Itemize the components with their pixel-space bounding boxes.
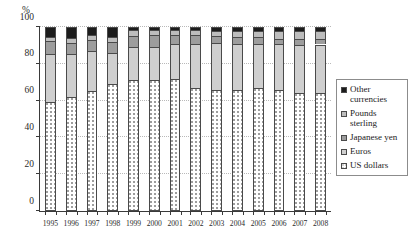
bar-segment[interactable] bbox=[274, 44, 285, 90]
stacked-bar-2008[interactable] bbox=[315, 27, 326, 211]
bar-group[interactable] bbox=[107, 27, 118, 211]
bar-segment[interactable] bbox=[170, 79, 181, 211]
bar-group[interactable] bbox=[128, 27, 139, 211]
bar-segment[interactable] bbox=[107, 84, 118, 212]
bar-segment[interactable] bbox=[294, 31, 305, 40]
legend-item[interactable]: Euros bbox=[341, 146, 403, 156]
bar-group[interactable] bbox=[45, 27, 56, 211]
legend-item[interactable]: Japanese yen bbox=[341, 132, 403, 142]
legend-item[interactable]: US dollars bbox=[341, 160, 403, 170]
bar-segment[interactable] bbox=[211, 36, 222, 43]
bar-segment[interactable] bbox=[87, 27, 98, 35]
bar-group[interactable] bbox=[274, 27, 285, 211]
bar-segment[interactable] bbox=[190, 88, 201, 211]
bar-group[interactable] bbox=[294, 27, 305, 211]
bar-segment[interactable] bbox=[190, 35, 201, 43]
bar-segment[interactable] bbox=[274, 31, 285, 39]
bar-segment[interactable] bbox=[128, 80, 139, 211]
bar-segment[interactable] bbox=[170, 35, 181, 44]
stacked-bar-2002[interactable] bbox=[190, 27, 201, 211]
bar-group[interactable] bbox=[253, 27, 264, 211]
bar-segment[interactable] bbox=[149, 35, 160, 46]
bar-segment[interactable] bbox=[149, 30, 160, 35]
stacked-bar-1995[interactable] bbox=[45, 27, 56, 211]
stacked-bar-1998[interactable] bbox=[107, 27, 118, 211]
bar-segment[interactable] bbox=[274, 27, 285, 30]
bar-group[interactable] bbox=[170, 27, 181, 211]
bar-segment[interactable] bbox=[45, 54, 56, 103]
bar-segment[interactable] bbox=[315, 45, 326, 94]
stacked-bar-1999[interactable] bbox=[128, 27, 139, 211]
bar-segment[interactable] bbox=[232, 27, 243, 31]
bar-segment[interactable] bbox=[274, 39, 285, 45]
bar-segment[interactable] bbox=[128, 27, 139, 30]
bar-segment[interactable] bbox=[253, 37, 264, 44]
bar-segment[interactable] bbox=[66, 27, 77, 38]
stacked-bar-2007[interactable] bbox=[294, 27, 305, 211]
bar-segment[interactable] bbox=[170, 30, 181, 35]
bar-segment[interactable] bbox=[45, 102, 56, 211]
bar-segment[interactable] bbox=[87, 91, 98, 211]
stacked-bar-2000[interactable] bbox=[149, 27, 160, 211]
stacked-bar-2004[interactable] bbox=[232, 27, 243, 211]
bar-group[interactable] bbox=[87, 27, 98, 211]
bar-segment[interactable] bbox=[253, 31, 264, 38]
stacked-bar-2005[interactable] bbox=[253, 27, 264, 211]
stacked-bar-1997[interactable] bbox=[87, 27, 98, 211]
bar-segment[interactable] bbox=[253, 27, 264, 31]
bar-group[interactable] bbox=[190, 27, 201, 211]
bar-segment[interactable] bbox=[66, 54, 77, 97]
bar-segment[interactable] bbox=[315, 31, 326, 38]
bar-segment[interactable] bbox=[211, 27, 222, 31]
bar-segment[interactable] bbox=[315, 93, 326, 211]
bar-segment[interactable] bbox=[107, 53, 118, 84]
bar-segment[interactable] bbox=[45, 37, 56, 41]
bar-group[interactable] bbox=[66, 27, 77, 211]
bar-segment[interactable] bbox=[315, 39, 326, 45]
bar-group[interactable] bbox=[232, 27, 243, 211]
bar-segment[interactable] bbox=[294, 93, 305, 211]
bar-group[interactable] bbox=[211, 27, 222, 211]
bar-segment[interactable] bbox=[66, 97, 77, 211]
bar-segment[interactable] bbox=[45, 27, 56, 37]
bar-segment[interactable] bbox=[87, 51, 98, 91]
bar-segment[interactable] bbox=[149, 80, 160, 211]
bar-segment[interactable] bbox=[232, 37, 243, 44]
bar-segment[interactable] bbox=[149, 27, 160, 30]
bar-segment[interactable] bbox=[315, 27, 326, 31]
bar-segment[interactable] bbox=[87, 40, 98, 51]
bar-segment[interactable] bbox=[253, 88, 264, 211]
stacked-bar-2001[interactable] bbox=[170, 27, 181, 211]
bar-segment[interactable] bbox=[190, 30, 201, 35]
bar-segment[interactable] bbox=[190, 44, 201, 88]
stacked-bar-2003[interactable] bbox=[211, 27, 222, 211]
bar-segment[interactable] bbox=[190, 27, 201, 30]
bar-segment[interactable] bbox=[211, 90, 222, 211]
bar-segment[interactable] bbox=[170, 27, 181, 30]
bar-group[interactable] bbox=[149, 27, 160, 211]
stacked-bar-2006[interactable] bbox=[274, 27, 285, 211]
bar-segment[interactable] bbox=[211, 43, 222, 89]
bar-segment[interactable] bbox=[274, 90, 285, 211]
bar-segment[interactable] bbox=[128, 30, 139, 35]
bar-segment[interactable] bbox=[253, 44, 264, 88]
bar-segment[interactable] bbox=[232, 44, 243, 90]
bar-segment[interactable] bbox=[294, 45, 305, 93]
bar-segment[interactable] bbox=[66, 43, 77, 54]
bar-group[interactable] bbox=[315, 27, 326, 211]
stacked-bar-1996[interactable] bbox=[66, 27, 77, 211]
bar-segment[interactable] bbox=[107, 27, 118, 37]
bar-segment[interactable] bbox=[211, 31, 222, 36]
bar-segment[interactable] bbox=[107, 37, 118, 42]
bar-segment[interactable] bbox=[45, 41, 56, 54]
bar-segment[interactable] bbox=[232, 31, 243, 37]
bar-segment[interactable] bbox=[107, 42, 118, 53]
bar-segment[interactable] bbox=[66, 38, 77, 43]
bar-segment[interactable] bbox=[128, 47, 139, 80]
bar-segment[interactable] bbox=[87, 35, 98, 40]
bar-segment[interactable] bbox=[294, 39, 305, 44]
bar-segment[interactable] bbox=[170, 44, 181, 79]
legend-item[interactable]: Other currencies bbox=[341, 84, 403, 104]
bar-segment[interactable] bbox=[232, 90, 243, 211]
bar-segment[interactable] bbox=[149, 47, 160, 81]
